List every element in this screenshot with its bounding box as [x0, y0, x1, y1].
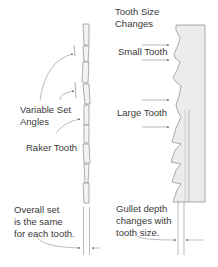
tooth-size-changes-label: Tooth Size Changes [115, 6, 159, 30]
label-line: is the same [14, 216, 75, 228]
label-line: Tooth Size [115, 6, 159, 18]
label-line: for each tooth. [14, 228, 75, 240]
label-line: Variable Set [20, 104, 71, 116]
label-line: tooth size. [116, 227, 171, 239]
label-line: Changes [115, 18, 159, 30]
label-line: Angles [20, 116, 71, 128]
label-line: changes with [116, 215, 171, 227]
gullet-depth-label: Gullet depth changes with tooth size. [116, 203, 171, 239]
overall-set-label: Overall set is the same for each tooth. [14, 204, 75, 240]
label-line: Overall set [14, 204, 75, 216]
side-view [171, 25, 205, 202]
large-tooth-label: Large Tooth [117, 107, 167, 119]
small-tooth-label: Small Tooth [118, 46, 167, 58]
raker-tooth-label: Raker Tooth [26, 142, 77, 154]
label-line: Gullet depth [116, 203, 171, 215]
variable-set-angles-label: Variable Set Angles [20, 104, 71, 128]
set-view [82, 24, 90, 203]
